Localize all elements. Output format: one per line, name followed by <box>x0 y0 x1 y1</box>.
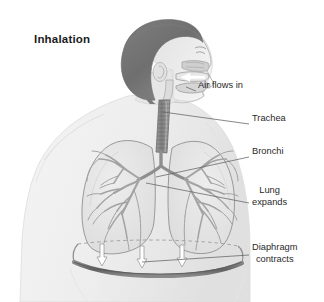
callout-lung-expands: Lung expands <box>252 185 287 208</box>
callout-lung-expands-label-line1: Lung <box>259 185 280 195</box>
page-title: Inhalation <box>34 33 90 45</box>
callout-diaphragm-contracts-label-line1: Diaphragm <box>252 242 297 252</box>
callout-trachea: Trachea <box>252 113 286 125</box>
callout-bronchi-label: Bronchi <box>252 146 284 156</box>
callout-diaphragm-contracts-label-line2: contracts <box>252 254 297 266</box>
ear <box>153 63 167 82</box>
nasal-cavity <box>182 61 209 72</box>
callout-trachea-label: Trachea <box>252 113 286 123</box>
callout-air-flows-in: Air flows in <box>198 80 243 92</box>
callout-bronchi: Bronchi <box>252 146 284 158</box>
callout-diaphragm-contracts: Diaphragm contracts <box>252 242 297 265</box>
callout-lung-expands-label-line2: expands <box>252 197 287 209</box>
inhalation-diagram: Inhalation Air flows in Trachea Bronchi … <box>0 0 324 302</box>
callout-air-flows-in-label: Air flows in <box>198 80 243 90</box>
